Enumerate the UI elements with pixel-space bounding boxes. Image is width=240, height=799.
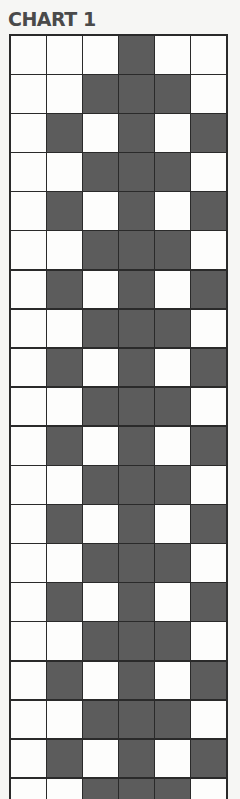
shaded-square <box>191 662 226 700</box>
blank-square <box>155 662 190 700</box>
chart-title: CHART 1 <box>8 8 96 30</box>
blank-square <box>155 192 190 230</box>
blank-square <box>11 388 46 426</box>
blank-square <box>11 466 46 504</box>
blank-square <box>11 583 46 621</box>
blank-square <box>11 114 46 152</box>
shaded-square <box>191 505 226 543</box>
shaded-square <box>47 505 82 543</box>
shaded-square <box>119 231 154 269</box>
shaded-square <box>191 114 226 152</box>
blank-square <box>191 388 226 426</box>
blank-square <box>47 36 82 74</box>
blank-square <box>11 701 46 739</box>
shaded-square <box>191 583 226 621</box>
blank-square <box>83 192 118 230</box>
shaded-square <box>47 740 82 778</box>
blank-square <box>83 271 118 309</box>
blank-square <box>11 779 46 799</box>
shaded-square <box>119 36 154 74</box>
blank-square <box>191 622 226 660</box>
shaded-square <box>47 427 82 465</box>
blank-square <box>155 583 190 621</box>
shaded-square <box>119 114 154 152</box>
shaded-square <box>83 231 118 269</box>
blank-square <box>11 427 46 465</box>
shaded-square <box>155 622 190 660</box>
blank-square <box>191 231 226 269</box>
blank-square <box>191 779 226 799</box>
blank-square <box>83 114 118 152</box>
shaded-square <box>119 310 154 348</box>
shaded-square <box>47 271 82 309</box>
blank-square <box>11 231 46 269</box>
shaded-square <box>83 779 118 799</box>
shaded-square <box>191 192 226 230</box>
blank-square <box>83 349 118 387</box>
shaded-square <box>119 701 154 739</box>
shaded-square <box>47 349 82 387</box>
shaded-square <box>119 740 154 778</box>
blank-square <box>191 310 226 348</box>
shaded-square <box>83 310 118 348</box>
blank-square <box>155 349 190 387</box>
blank-square <box>155 427 190 465</box>
blank-square <box>191 466 226 504</box>
blank-square <box>47 388 82 426</box>
blank-square <box>83 662 118 700</box>
blank-square <box>191 544 226 582</box>
blank-square <box>191 36 226 74</box>
shaded-square <box>119 622 154 660</box>
shaded-square <box>119 192 154 230</box>
shaded-square <box>119 271 154 309</box>
shaded-square <box>83 622 118 660</box>
shaded-square <box>155 153 190 191</box>
shaded-square <box>155 231 190 269</box>
blank-square <box>191 153 226 191</box>
blank-square <box>47 466 82 504</box>
blank-square <box>83 36 118 74</box>
shaded-square <box>83 544 118 582</box>
blank-square <box>11 310 46 348</box>
blank-square <box>47 231 82 269</box>
shaded-square <box>155 701 190 739</box>
shaded-square <box>83 153 118 191</box>
blank-square <box>83 427 118 465</box>
blank-square <box>191 701 226 739</box>
shaded-square <box>47 583 82 621</box>
shaded-square <box>191 740 226 778</box>
shaded-square <box>83 388 118 426</box>
blank-square <box>155 114 190 152</box>
pattern-grid <box>9 34 228 799</box>
blank-square <box>11 740 46 778</box>
blank-square <box>83 505 118 543</box>
blank-square <box>155 271 190 309</box>
shaded-square <box>119 153 154 191</box>
blank-square <box>11 75 46 113</box>
blank-square <box>11 153 46 191</box>
blank-square <box>11 544 46 582</box>
blank-square <box>47 701 82 739</box>
blank-square <box>47 779 82 799</box>
blank-square <box>47 75 82 113</box>
blank-square <box>11 192 46 230</box>
blank-square <box>155 36 190 74</box>
blank-square <box>83 740 118 778</box>
blank-square <box>47 153 82 191</box>
blank-square <box>155 740 190 778</box>
shaded-square <box>119 779 154 799</box>
blank-square <box>191 75 226 113</box>
blank-square <box>11 271 46 309</box>
shaded-square <box>47 662 82 700</box>
blank-square <box>155 505 190 543</box>
shaded-square <box>119 466 154 504</box>
shaded-square <box>47 114 82 152</box>
blank-square <box>11 349 46 387</box>
shaded-square <box>119 75 154 113</box>
shaded-square <box>155 779 190 799</box>
blank-square <box>11 622 46 660</box>
shaded-square <box>47 192 82 230</box>
blank-square <box>11 505 46 543</box>
shaded-square <box>119 544 154 582</box>
shaded-square <box>119 505 154 543</box>
